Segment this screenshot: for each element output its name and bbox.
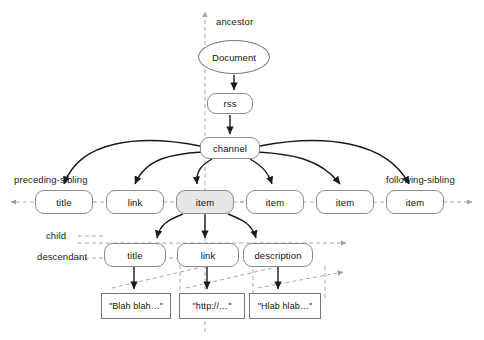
- node-text-hlab[interactable]: "Hlab hlab…": [249, 293, 321, 319]
- node-rss[interactable]: rss: [207, 93, 253, 114]
- axis-label-child: child: [46, 230, 66, 241]
- descendant-axis-segment-4: [258, 272, 343, 288]
- node-description-child[interactable]: description: [243, 243, 313, 267]
- edge-item-description: [228, 214, 256, 238]
- node-item-context[interactable]: item: [176, 190, 234, 214]
- edge-channel-link: [135, 152, 202, 184]
- axis-label-following-sibling: following-sibling: [386, 174, 455, 185]
- node-link-preceding-sibling[interactable]: link: [106, 190, 164, 214]
- xpath-axes-diagram: ancestor preceding-sibling following-sib…: [0, 0, 484, 340]
- node-channel[interactable]: channel: [200, 137, 260, 159]
- node-link-child[interactable]: link: [177, 243, 239, 267]
- node-document[interactable]: Document: [198, 40, 270, 74]
- descendant-axis-segment-2: [112, 268, 198, 288]
- descendant-axis-segment-3: [186, 268, 272, 288]
- edge-item-title: [157, 214, 183, 238]
- edge-channel-item1: [197, 159, 212, 184]
- node-text-blah[interactable]: "Blah blah…": [101, 293, 171, 319]
- node-text-http[interactable]: "http://…": [179, 293, 245, 319]
- node-title-child[interactable]: title: [104, 243, 166, 267]
- node-title-preceding-sibling[interactable]: title: [35, 190, 93, 214]
- node-item-following-2[interactable]: item: [316, 190, 374, 214]
- edge-channel-item2: [250, 159, 272, 184]
- node-item-following-3[interactable]: item: [386, 190, 444, 214]
- axis-label-preceding-sibling: preceding-sibling: [14, 174, 88, 185]
- node-item-following-1[interactable]: item: [246, 190, 304, 214]
- axis-label-ancestor: ancestor: [216, 16, 253, 27]
- axis-label-descendant: descendant: [37, 251, 87, 262]
